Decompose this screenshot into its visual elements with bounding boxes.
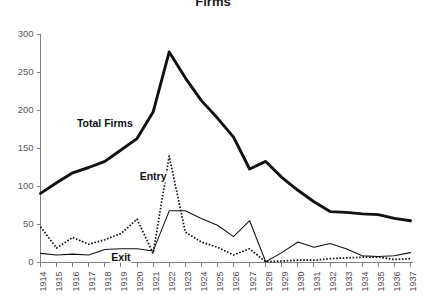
x-axis-label-group: 1914191519161917191819191920192119221923…: [38, 272, 418, 292]
x-tick-label: 1919: [119, 272, 129, 292]
x-tick-label: 1928: [264, 272, 274, 292]
x-tick-label: 1936: [392, 272, 402, 292]
x-tick-label: 1932: [328, 272, 338, 292]
y-tick-label: 300: [18, 28, 34, 39]
y-tick-label: 50: [23, 218, 34, 229]
series-line-exit: [41, 211, 411, 262]
series-line-entry: [41, 156, 411, 262]
series-label-entry: Entry: [140, 170, 167, 182]
x-tick-label: 1915: [54, 272, 64, 292]
x-tick-label: 1926: [231, 272, 241, 292]
x-tick-label: 1917: [87, 272, 97, 292]
x-tick-label: 1920: [135, 272, 145, 292]
x-tick-label: 1924: [199, 272, 209, 292]
y-tick-label: 100: [18, 180, 34, 191]
x-tick-label: 1927: [248, 272, 258, 292]
series-label-exit: Exit: [111, 251, 131, 263]
x-tick-label: 1930: [296, 272, 306, 292]
y-tick-label: 250: [18, 66, 34, 77]
series-group: [41, 52, 411, 262]
series-annotation-group: Total FirmsTotal FirmsEntryEntryExitExit: [77, 117, 167, 263]
x-tick-label: 1929: [280, 272, 290, 292]
x-tick-label: 1918: [103, 272, 113, 292]
y-axis-tick-group: [37, 35, 41, 263]
y-tick-label: 200: [18, 104, 34, 115]
y-tick-label: 0: [28, 256, 33, 267]
series-line-total-firms: [41, 52, 411, 221]
x-tick-label: 1923: [183, 272, 193, 292]
x-tick-label: 1914: [38, 272, 48, 292]
x-tick-label: 1921: [151, 272, 161, 292]
y-axis-label-group: 050100150200250300: [18, 28, 34, 267]
x-tick-label: 1916: [71, 272, 81, 292]
y-tick-label: 150: [18, 142, 34, 153]
x-tick-label: 1934: [360, 272, 370, 292]
x-tick-label: 1922: [167, 272, 177, 292]
x-tick-label: 1937: [408, 272, 418, 292]
x-tick-label: 1925: [215, 272, 225, 292]
chart-figure: Firms 050100150200250300 191419151916191…: [0, 0, 426, 307]
x-axis-tick-group: [41, 263, 411, 267]
series-label-total-firms: Total Firms: [77, 117, 133, 129]
x-tick-label: 1935: [376, 272, 386, 292]
x-tick-label: 1931: [312, 272, 322, 292]
line-chart-svg: 050100150200250300 191419151916191719181…: [0, 0, 426, 307]
x-tick-label: 1933: [344, 272, 354, 292]
